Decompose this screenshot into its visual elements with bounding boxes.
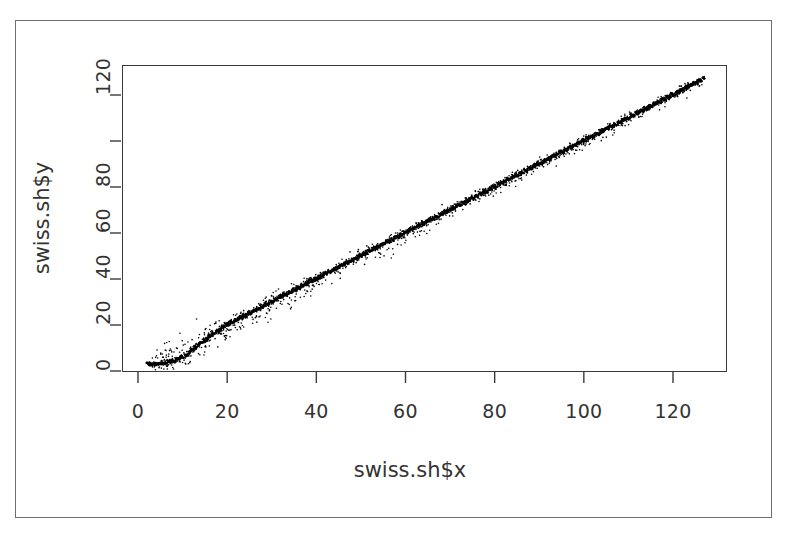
- x-tick-label-0: 0: [132, 400, 144, 422]
- x-tick-label-120: 120: [654, 400, 691, 422]
- plot-area-border: [122, 65, 727, 372]
- x-tick-label-60: 60: [393, 400, 418, 422]
- x-tick-label-20: 20: [215, 400, 240, 422]
- x-tick-label-80: 80: [482, 400, 507, 422]
- x-tick-label-100: 100: [565, 400, 602, 422]
- x-axis-title: swiss.sh$x: [354, 458, 467, 482]
- screenshot-root: 020406080100120 020406080120 swiss.sh$x …: [0, 0, 790, 534]
- y-axis-title: swiss.sh$y: [30, 162, 54, 275]
- x-tick-label-40: 40: [304, 400, 329, 422]
